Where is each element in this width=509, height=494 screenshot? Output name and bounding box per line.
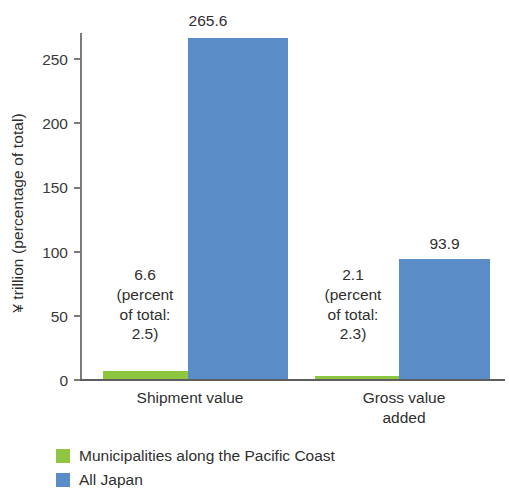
legend-item-pacific-coast: Municipalities along the Pacific Coast xyxy=(56,444,335,468)
bar-chart-figure: ¥ trillion (percentage of total) 250 200… xyxy=(0,0,509,494)
annotation-line-3: of total: xyxy=(95,305,195,325)
y-tick-label-200: 200 xyxy=(10,116,68,132)
legend-swatch-blue-icon xyxy=(56,473,70,487)
annotation-shipment-pacific-coast: 6.6 (percent of total: 2.5) xyxy=(95,265,195,344)
annotation-line-2: (percent xyxy=(95,285,195,305)
bar-value-label-gross-all-japan: 93.9 xyxy=(399,236,490,252)
x-category-label-gross-value-added: Gross value added xyxy=(318,388,490,428)
y-tick-label-250: 250 xyxy=(10,52,68,68)
annotation-line-3: of total: xyxy=(306,305,400,325)
bar-gross-value-added-all-japan xyxy=(399,259,490,379)
annotation-line-2: (percent xyxy=(306,285,400,305)
x-category-label-line-1: Gross value xyxy=(318,388,490,408)
legend-item-all-japan: All Japan xyxy=(56,468,335,492)
bar-value-label-shipment-all-japan: 265.6 xyxy=(158,13,258,29)
x-axis-line xyxy=(80,379,505,381)
annotation-line-4: 2.3) xyxy=(306,324,400,344)
x-category-label-line-2: added xyxy=(318,408,490,428)
annotation-gross-pacific-coast: 2.1 (percent of total: 2.3) xyxy=(306,265,400,344)
y-axis-title: ¥ trillion (percentage of total) xyxy=(9,53,27,373)
y-tick-label-50: 50 xyxy=(10,309,68,325)
annotation-line-4: 2.5) xyxy=(95,324,195,344)
legend-label-pacific-coast: Municipalities along the Pacific Coast xyxy=(79,447,335,465)
y-tick-label-100: 100 xyxy=(10,245,68,261)
x-category-label-shipment-value: Shipment value xyxy=(95,388,285,408)
annotation-line-1: 6.6 xyxy=(95,265,195,285)
x-category-label-line-1: Shipment value xyxy=(95,388,285,408)
bar-shipment-value-all-japan xyxy=(188,38,288,379)
annotation-line-1: 2.1 xyxy=(306,265,400,285)
bar-shipment-value-pacific-coast xyxy=(103,371,188,380)
y-tick-label-0: 0 xyxy=(10,373,68,389)
legend-label-all-japan: All Japan xyxy=(79,471,143,489)
y-tick-label-150: 150 xyxy=(10,180,68,196)
legend-swatch-green-icon xyxy=(56,449,70,463)
chart-legend: Municipalities along the Pacific Coast A… xyxy=(56,444,335,492)
bar-gross-value-added-pacific-coast xyxy=(315,376,399,379)
